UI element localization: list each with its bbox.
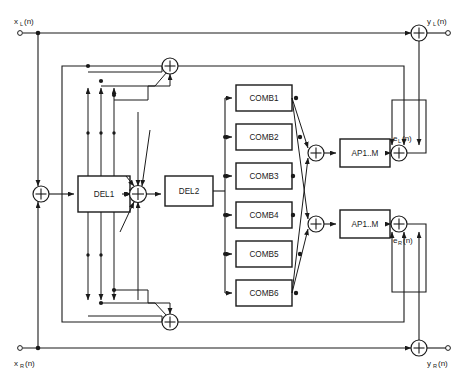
summer-input-left (33, 186, 49, 202)
summer-el (391, 145, 407, 161)
yl-sub: L (433, 21, 436, 27)
comb1-label: COMB1 (249, 94, 279, 103)
label-yl: y L (n) (427, 17, 447, 27)
el-sub: L (398, 138, 401, 144)
lower-collectors (88, 288, 170, 322)
allpass-right-label: AP1..M (352, 220, 379, 229)
comb3-label: COMB3 (249, 172, 279, 181)
el-suffix: (n) (402, 134, 412, 143)
xr-base: x (14, 359, 18, 368)
block-comb4: COMB4 (236, 202, 292, 228)
input-terminal-xr (18, 346, 23, 351)
yr-base: y (427, 359, 431, 368)
er-suffix: (n) (403, 236, 413, 245)
diagram-canvas: DEL1 DEL2 (0, 0, 470, 385)
block-comb3: COMB3 (236, 163, 292, 189)
xl-base: x (14, 17, 18, 26)
comb4-label: COMB4 (249, 211, 279, 220)
top-input-rail (18, 31, 411, 36)
bottom-input-rail (18, 346, 411, 351)
summer-output-right (411, 340, 427, 356)
comb-output-fan (291, 96, 308, 295)
comb6-label: COMB6 (249, 289, 279, 298)
yr-suffix: (n) (438, 359, 448, 368)
xl-sub: L (20, 21, 23, 27)
label-yr: y R (n) (427, 359, 448, 369)
xl-suffix: (n) (24, 17, 34, 26)
label-el: e L (n) (393, 134, 412, 144)
block-del2: DEL2 (165, 176, 213, 206)
output-terminals (427, 31, 450, 351)
label-xr: x R (n) (14, 359, 35, 369)
del2-label: DEL2 (179, 187, 200, 196)
label-xl: x L (n) (14, 17, 34, 27)
allpass-left-label: AP1..M (352, 149, 379, 158)
block-comb6: COMB6 (236, 280, 292, 306)
label-er: e R (n) (393, 236, 413, 246)
block-allpass-left: AP1..M (340, 139, 390, 167)
summer-output-left (411, 25, 427, 41)
yl-suffix: (n) (437, 17, 447, 26)
summer-er (391, 216, 407, 232)
er-sub: R (398, 240, 402, 246)
xr-suffix: (n) (25, 359, 35, 368)
upper-collectors (86, 64, 170, 100)
summer-bottom-feedback (162, 314, 178, 330)
summer-top-feedback (162, 58, 178, 74)
block-comb5: COMB5 (236, 241, 292, 267)
yl-base: y (427, 17, 431, 26)
xr-sub: R (20, 363, 24, 369)
reverb-block-diagram: DEL1 DEL2 (0, 0, 470, 385)
block-allpass-right: AP1..M (340, 210, 390, 238)
summer-center (130, 186, 147, 203)
comb-block-group: COMB1 COMB2 COMB3 COMB4 COMB5 COMB6 (236, 85, 292, 306)
block-comb2: COMB2 (236, 124, 292, 150)
yr-sub: R (433, 363, 437, 369)
output-terminal-yr (446, 346, 451, 351)
summer-comb-right (308, 216, 324, 232)
output-terminal-yl (446, 31, 451, 36)
block-comb1: COMB1 (236, 85, 292, 111)
comb2-label: COMB2 (249, 133, 279, 142)
e-right-feedback (392, 224, 426, 292)
del1-label: DEL1 (94, 190, 115, 199)
comb-distribution-bus (213, 98, 232, 293)
summer-comb-left (308, 145, 324, 161)
input-terminal-xl (18, 31, 23, 36)
comb5-label: COMB5 (249, 250, 279, 259)
